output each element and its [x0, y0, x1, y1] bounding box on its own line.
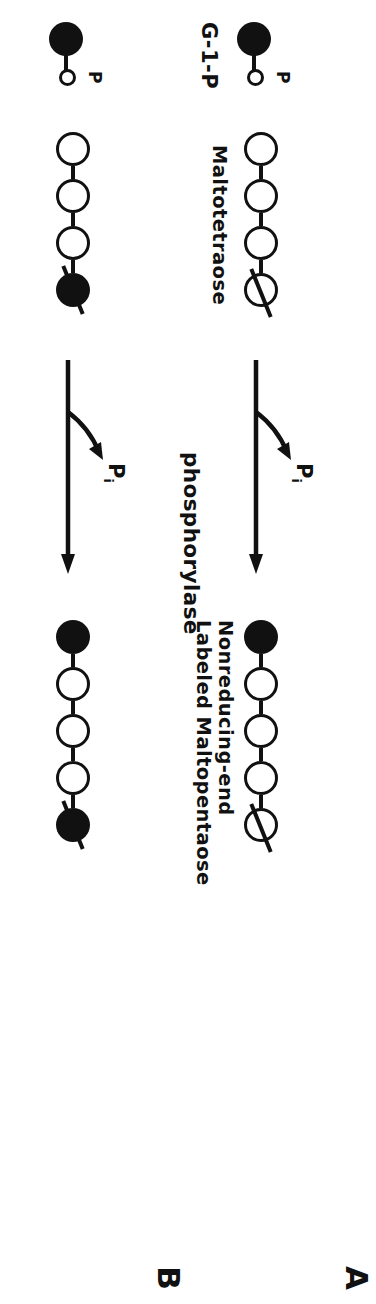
glycosidic-bond	[71, 166, 75, 179]
maltopentaose-label-line2: Labeled Maltopentaose	[192, 620, 214, 886]
enzyme-label: phosphorylase	[181, 452, 203, 635]
glucosyl-residue	[56, 179, 90, 213]
maltopentaose-chain-b	[50, 620, 96, 842]
glycosidic-bond	[259, 166, 263, 179]
panel-a: A P G-1-P Maltotetraose	[188, 0, 376, 1304]
nonreducing-end-slash	[61, 265, 84, 315]
glucosyl-residue	[244, 132, 278, 166]
nonreducing-end-slash	[249, 268, 272, 318]
labeled-nonreducing-end-residue	[56, 273, 90, 307]
glucosyl-residue	[244, 179, 278, 213]
pi-label-a: Pi	[290, 463, 314, 483]
panel-b: B P Pi	[0, 0, 188, 1304]
glycosidic-bond	[259, 260, 263, 273]
maltopentaose-label-line1: Nonreducing-end	[214, 620, 236, 816]
glycosidic-bond	[71, 213, 75, 226]
glycosidic-bond	[259, 748, 263, 761]
g1p-label-a: G-1-P	[198, 22, 219, 89]
labeled-reducing-end-residue	[244, 620, 278, 654]
nonreducing-end-residue	[244, 273, 278, 307]
maltotetraose-chain-a	[238, 132, 284, 307]
glycosidic-bond	[259, 213, 263, 226]
pi-subscript: i	[289, 478, 304, 482]
phosphate-circle	[247, 69, 264, 86]
labeled-glucose-circle	[49, 22, 83, 56]
panel-letter-b: B	[153, 1266, 184, 1290]
nonreducing-end-residue	[244, 808, 278, 842]
labeled-nonreducing-end-residue	[56, 808, 90, 842]
phosphate-label: P	[274, 71, 291, 83]
glucosyl-residue	[56, 714, 90, 748]
pi-letter: P	[104, 463, 128, 478]
glucosyl-residue	[244, 714, 278, 748]
glucosyl-residue	[244, 226, 278, 260]
glycosidic-bond	[71, 260, 75, 273]
nonreducing-end-slash	[249, 803, 272, 853]
pi-letter: P	[292, 463, 316, 478]
glucosyl-residue	[56, 132, 90, 166]
glucosyl-residue	[244, 667, 278, 701]
glucosyl-residue	[56, 226, 90, 260]
phosphate-circle	[59, 69, 76, 86]
glucosyl-residue	[244, 761, 278, 795]
glucosyl-residue	[56, 761, 90, 795]
pi-label-b: Pi	[102, 463, 126, 483]
glycosidic-bond	[259, 654, 263, 667]
glycosidic-bond	[71, 654, 75, 667]
pi-subscript: i	[101, 478, 116, 482]
maltotetraose-chain-b	[50, 132, 96, 307]
glycosidic-bond	[71, 748, 75, 761]
glycosidic-bond	[71, 701, 75, 714]
figure-canvas: A P G-1-P Maltotetraose	[0, 0, 376, 1304]
glycosidic-bond	[259, 701, 263, 714]
maltotetraose-label: Maltotetraose	[208, 145, 230, 305]
glycosidic-bond	[259, 795, 263, 808]
panel-letter-a: A	[341, 1266, 372, 1290]
glycosidic-bond	[71, 795, 75, 808]
glucosyl-residue	[56, 667, 90, 701]
nonreducing-end-slash	[61, 800, 84, 850]
labeled-glucose-circle	[237, 22, 271, 56]
maltopentaose-chain-a	[238, 620, 284, 842]
phosphate-label: P	[86, 71, 103, 83]
labeled-reducing-end-residue	[56, 620, 90, 654]
